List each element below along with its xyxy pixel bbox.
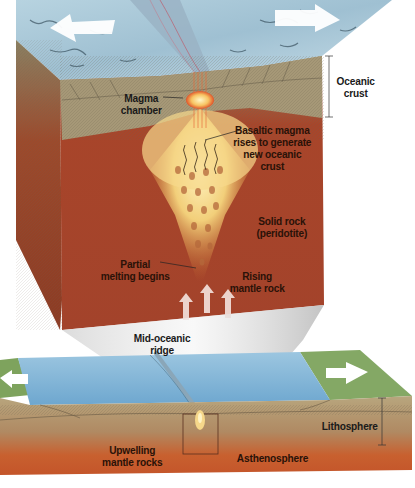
label-upwelling: Upwelling mantle rocks <box>102 444 162 468</box>
label-magma-chamber: Magma chamber <box>121 92 162 116</box>
magma-chamber <box>186 91 214 109</box>
label-oceanic-crust: Oceanic crust <box>337 75 375 99</box>
ridge-diagram <box>0 0 415 488</box>
label-mid-oceanic-ridge: Mid-oceanic ridge <box>134 332 191 356</box>
label-asthenosphere: Asthenosphere <box>237 452 308 464</box>
label-lithosphere: Lithosphere <box>322 420 378 432</box>
label-rising-mantle: Rising mantle rock <box>230 270 285 294</box>
label-solid-rock: Solid rock (peridotite) <box>256 215 307 239</box>
label-basaltic-magma: Basaltic magma rises to generate new oce… <box>233 124 311 172</box>
label-partial-melting: Partial melting begins <box>101 258 170 282</box>
